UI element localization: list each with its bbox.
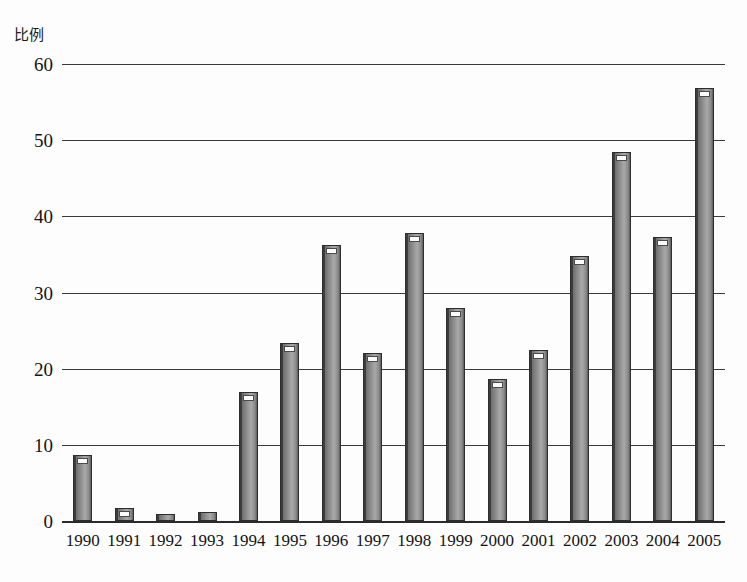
- bar-1998: [405, 233, 424, 521]
- bar-slot: [103, 64, 144, 521]
- bar-slot: [145, 64, 186, 521]
- x-tick-label: 2002: [563, 532, 597, 551]
- bar-slot: [476, 64, 517, 521]
- bar-highlight-cap: [409, 236, 420, 242]
- bar-highlight-cap: [699, 91, 710, 97]
- x-tick-label: 1992: [149, 532, 183, 551]
- bar-1995: [280, 343, 299, 521]
- x-tick-label: 1993: [190, 532, 224, 551]
- bar-highlight-cap: [450, 311, 461, 317]
- bar-highlight-cap: [657, 240, 668, 246]
- bar-slot: [642, 64, 683, 521]
- y-tick-label: 30: [34, 283, 53, 302]
- bar-highlight-cap: [533, 353, 544, 359]
- x-tick-label: 2005: [687, 532, 721, 551]
- bar-slot: [435, 64, 476, 521]
- y-tick-label: 60: [34, 55, 53, 74]
- x-tick-label: 2000: [480, 532, 514, 551]
- y-axis-title: 比例: [14, 28, 44, 43]
- bar-slot: [394, 64, 435, 521]
- bar-slot: [269, 64, 310, 521]
- bar-slot: [518, 64, 559, 521]
- bar-2004: [653, 237, 672, 521]
- bar-2000: [488, 379, 507, 521]
- x-tick-label: 2004: [646, 532, 680, 551]
- x-tick-label: 1997: [356, 532, 390, 551]
- x-tick-label: 1998: [397, 532, 431, 551]
- bar-2002: [570, 256, 589, 521]
- bar-2001: [529, 350, 548, 521]
- bar-highlight-cap: [492, 382, 503, 388]
- bar-1990: [73, 455, 92, 521]
- bar-slot: [186, 64, 227, 521]
- x-tick-label: 1999: [439, 532, 473, 551]
- bar-slot: [62, 64, 103, 521]
- bar-slot: [352, 64, 393, 521]
- x-tick-label: 1991: [107, 532, 141, 551]
- bar-2005: [695, 88, 714, 521]
- bars-layer: [62, 64, 725, 521]
- bar-slot: [228, 64, 269, 521]
- bar-highlight-cap: [616, 155, 627, 161]
- y-tick-label: 40: [34, 207, 53, 226]
- y-tick-label: 20: [34, 359, 53, 378]
- x-axis-ticks: 1990199119921993199419951996199719981999…: [62, 532, 725, 562]
- bar-slot: [601, 64, 642, 521]
- x-tick-label: 1994: [231, 532, 265, 551]
- gridline-0: [62, 521, 725, 523]
- bar-highlight-cap: [284, 346, 295, 352]
- bar-1993: [198, 512, 217, 521]
- x-tick-label: 1990: [66, 532, 100, 551]
- bar-1999: [446, 308, 465, 521]
- bar-slot: [311, 64, 352, 521]
- bar-1991: [115, 508, 134, 521]
- bar-2003: [612, 152, 631, 521]
- bar-1994: [239, 392, 258, 521]
- bar-chart: 比例 0102030405060 19901991199219931994199…: [0, 0, 747, 582]
- x-tick-label: 1996: [314, 532, 348, 551]
- plot-area: 0102030405060: [62, 64, 725, 521]
- bar-highlight-cap: [243, 395, 254, 401]
- bar-highlight-cap: [326, 248, 337, 254]
- x-tick-label: 2001: [522, 532, 556, 551]
- y-tick-label: 0: [44, 512, 54, 531]
- x-tick-label: 2003: [604, 532, 638, 551]
- y-tick-label: 50: [34, 131, 53, 150]
- y-tick-label: 10: [34, 435, 53, 454]
- bar-slot: [684, 64, 725, 521]
- bar-1997: [363, 353, 382, 521]
- bar-1992: [156, 514, 175, 521]
- bar-highlight-cap: [367, 356, 378, 362]
- bar-slot: [559, 64, 600, 521]
- x-tick-label: 1995: [273, 532, 307, 551]
- bar-highlight-cap: [574, 259, 585, 265]
- bar-1996: [322, 245, 341, 521]
- bar-highlight-cap: [77, 458, 88, 464]
- bar-highlight-cap: [119, 511, 130, 517]
